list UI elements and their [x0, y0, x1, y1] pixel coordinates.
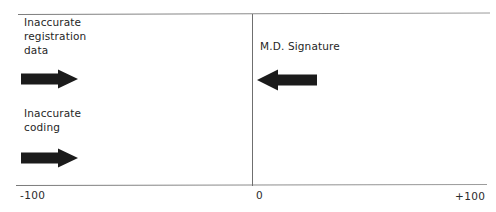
axis-tick-label-minus-100: -100	[20, 189, 45, 201]
right-arrow-glyph	[21, 69, 78, 89]
diagram-canvas: Inaccurate registration data Inaccurate …	[0, 0, 496, 212]
annotation-label-inaccurate-registration-data: Inaccurate registration data	[24, 15, 86, 58]
right-arrow-icon-coding	[21, 148, 78, 168]
right-arrow-glyph	[21, 148, 78, 168]
annotation-label-md-signature: M.D. Signature	[260, 39, 340, 53]
zero-divider-line	[252, 14, 253, 186]
top-border-line	[18, 13, 490, 15]
axis-tick-label-plus-100: +100	[455, 190, 485, 202]
axis-tick-label-zero: 0	[256, 189, 263, 201]
annotation-label-inaccurate-coding: Inaccurate coding	[24, 106, 81, 134]
right-arrow-icon-registration	[21, 69, 78, 89]
left-arrow-glyph	[257, 69, 317, 91]
left-arrow-icon-signature	[257, 69, 317, 91]
